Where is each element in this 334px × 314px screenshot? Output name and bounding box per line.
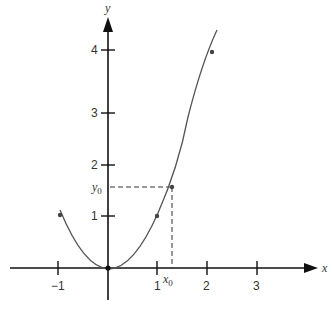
x0-label: x0: [162, 272, 173, 288]
y-tick-label: 3: [91, 106, 98, 120]
x-tick-label: −1: [51, 279, 65, 293]
parabola-curve: [60, 30, 217, 269]
chart: x y −1 1 2 3 1 2 3 4 y0 x0: [0, 0, 334, 314]
data-points: [58, 50, 214, 271]
point-origin: [105, 265, 110, 270]
x-tick-label: 2: [203, 279, 210, 293]
x-tick-label: 1: [154, 279, 161, 293]
point-x0-y0: [170, 185, 174, 189]
point-2-4: [210, 50, 214, 54]
y-tick-label: 2: [91, 158, 98, 172]
x-axis-arrow-icon: [304, 263, 318, 273]
point-1-1: [155, 214, 159, 218]
y-axis-arrow-icon: [103, 17, 113, 32]
y0-label: y0: [91, 180, 102, 196]
y-tick-label: 1: [91, 209, 98, 223]
y-axis-label: y: [104, 1, 111, 15]
x-axis-label: x: [321, 261, 328, 275]
point-neg1-1: [58, 213, 62, 217]
y-tick-label: 4: [91, 43, 98, 57]
x-tick-label: 3: [253, 279, 260, 293]
